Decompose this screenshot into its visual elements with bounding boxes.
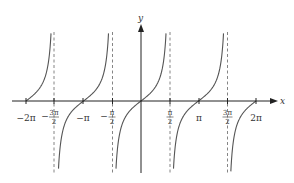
tan-branch-4 (231, 101, 256, 171)
svg-text:3π: 3π (49, 109, 58, 117)
tick-label-3pi-2: 3π 2 (223, 109, 233, 126)
y-axis-arrow-icon (138, 24, 144, 32)
svg-text:2: 2 (110, 118, 114, 126)
svg-text:−: − (100, 111, 108, 121)
y-axis-label: y (137, 13, 144, 23)
svg-text:2: 2 (52, 118, 56, 126)
tick-label-neg-pi-2: − π 2 (100, 109, 115, 126)
svg-text:π: π (168, 109, 173, 117)
svg-text:π: π (110, 109, 115, 117)
tangent-graph: x y −2π − 3π 2 −π − π 2 π 2 π 3π (0, 0, 294, 183)
svg-text:2: 2 (225, 118, 229, 126)
tick-label-pi-2: π 2 (167, 109, 174, 126)
tick-label-2pi: 2π (250, 113, 262, 123)
x-axis-label: x (280, 96, 285, 106)
tick-label-pi: π (196, 113, 202, 123)
tick-label-neg-pi: −π (76, 113, 90, 123)
tick-label-neg-2pi: −2π (16, 113, 35, 123)
tick-label-neg-3pi-2: − 3π 2 (41, 109, 59, 126)
svg-text:−: − (41, 111, 49, 121)
svg-text:2: 2 (168, 118, 172, 126)
svg-text:3π: 3π (223, 109, 232, 117)
tan-branch-0 (26, 33, 51, 101)
x-axis-arrow-icon (270, 98, 278, 104)
